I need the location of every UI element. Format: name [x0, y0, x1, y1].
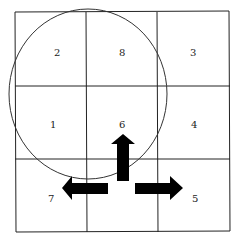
cell-label-1: 1 [50, 119, 56, 130]
cell-label-5: 5 [192, 193, 198, 204]
cell-label-7: 7 [48, 193, 54, 204]
puzzle-diagram: 2 8 3 1 6 4 7 5 [0, 0, 237, 241]
cell-label-8: 8 [119, 47, 125, 58]
arrow-right-icon [135, 176, 183, 200]
cell-label-4: 4 [191, 119, 197, 130]
cell-label-2: 2 [54, 47, 60, 58]
cell-label-3: 3 [190, 47, 196, 58]
selection-ellipse [9, 9, 167, 179]
arrow-left-icon [62, 176, 108, 200]
cell-label-6: 6 [119, 119, 125, 130]
